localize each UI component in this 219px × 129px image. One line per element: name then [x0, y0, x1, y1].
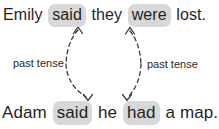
arrowhead-down-icon [84, 95, 93, 101]
top-sentence: Emily said they were lost. [3, 4, 206, 27]
left-arrow-upper-curve [66, 30, 78, 64]
bottom-word-a: a [166, 102, 176, 123]
left-arrow-lower-curve [66, 64, 86, 97]
top-word-said-highlighted: said [48, 4, 86, 27]
bottom-sentence: Adam said he had a map. [2, 101, 218, 125]
arrowhead-up-icon [126, 28, 135, 35]
top-word-were-highlighted: were [128, 4, 171, 27]
past-tense-label-right: past tense [147, 58, 198, 70]
past-tense-label-left: past tense [13, 57, 64, 69]
bottom-word-map: map. [180, 102, 218, 123]
top-word-they: they [91, 5, 122, 25]
right-arrow [123, 28, 142, 101]
right-arrow-upper-curve [130, 31, 141, 64]
grammar-diagram: Emily said they were lost. past tense pa… [0, 0, 219, 129]
arrowhead-down-icon [123, 95, 132, 101]
bottom-word-he: he [98, 102, 117, 123]
top-word-lost: lost. [176, 5, 206, 25]
bottom-word-had-highlighted: had [123, 101, 160, 125]
right-arrow-lower-curve [128, 64, 141, 97]
top-word-emily: Emily [3, 5, 43, 25]
left-arrow [66, 27, 93, 101]
bottom-word-said-highlighted: said [53, 101, 93, 125]
arrowhead-up-icon [74, 27, 83, 34]
bottom-word-adam: Adam [2, 102, 47, 123]
